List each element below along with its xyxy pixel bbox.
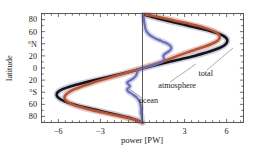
y-tick-label: °N	[28, 40, 37, 49]
leader-line-atmosphere	[170, 64, 196, 82]
annotation-atmosphere: atmosphere	[158, 81, 196, 90]
x-tick-label: 3	[183, 127, 187, 136]
annotation-total: total	[198, 69, 213, 78]
y-tick-label: 80	[29, 112, 37, 121]
y-tick-label: 80	[29, 15, 37, 24]
x-axis-title: power [PW]	[121, 135, 163, 145]
chart-figure: −6−3368060°N20020°S6080 totalatmosphereo…	[0, 0, 260, 149]
y-tick-label: 20	[29, 76, 37, 85]
y-tick-label: 0	[33, 64, 37, 73]
x-tick-label: −3	[96, 127, 105, 136]
annotation-ocean: ocean	[139, 96, 158, 105]
y-tick-label: °S	[29, 88, 37, 97]
y-axis-title: latitude	[4, 55, 14, 81]
meridional-heat-transport-chart: −6−3368060°N20020°S6080 totalatmosphereo…	[0, 0, 260, 149]
y-tick-label: 60	[29, 100, 37, 109]
y-tick-label: 60	[29, 28, 37, 37]
x-tick-label: 6	[225, 127, 229, 136]
y-tick-label: 20	[29, 52, 37, 61]
x-tick-label: −6	[54, 127, 63, 136]
